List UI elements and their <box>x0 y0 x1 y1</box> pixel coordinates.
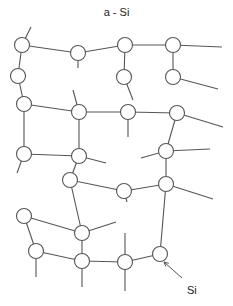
bond-lines <box>18 45 177 262</box>
bond <box>160 184 166 254</box>
si-atom <box>63 173 78 188</box>
si-atom <box>29 244 44 259</box>
si-atom <box>11 69 26 84</box>
amorphous-silicon-network <box>0 0 233 306</box>
si-atom <box>170 106 185 121</box>
si-atom <box>159 144 174 159</box>
si-atom <box>17 209 32 224</box>
si-atom <box>71 46 86 61</box>
si-atom <box>153 247 168 262</box>
si-atom <box>75 254 90 269</box>
bond <box>70 180 124 191</box>
si-atom <box>166 70 181 85</box>
si-atom <box>72 149 87 164</box>
si-atom <box>118 38 133 53</box>
si-atom <box>17 97 32 112</box>
si-atom <box>166 38 181 53</box>
si-atom <box>121 105 136 120</box>
bond <box>22 45 78 53</box>
si-atom-label: Si <box>187 284 197 296</box>
bond <box>70 180 82 233</box>
si-atom <box>117 70 132 85</box>
si-atom <box>159 177 174 192</box>
si-atom <box>117 184 132 199</box>
dangling-bonds <box>17 27 223 291</box>
si-atom <box>72 105 87 120</box>
bond <box>24 154 79 156</box>
si-atom <box>118 255 133 270</box>
si-atom <box>15 38 30 53</box>
silicon-atoms <box>11 38 185 270</box>
annotation-arrow <box>164 262 182 278</box>
arrow-shaft <box>164 262 182 278</box>
si-atom <box>17 147 32 162</box>
si-atom <box>75 226 90 241</box>
bond <box>24 104 79 112</box>
bond <box>24 216 82 233</box>
